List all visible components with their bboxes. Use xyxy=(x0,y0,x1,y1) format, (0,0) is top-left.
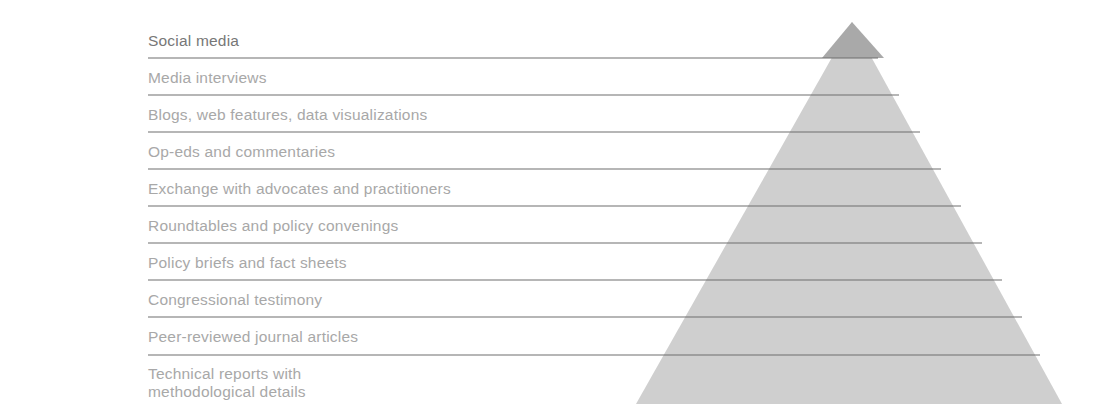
technical-reports-line-2: methodological details xyxy=(148,383,306,401)
layer-label-peer-reviewed: Peer-reviewed journal articles xyxy=(148,328,358,346)
layer-label-exchange: Exchange with advocates and practitioner… xyxy=(148,180,451,198)
technical-reports-line-1: Technical reports with xyxy=(148,365,306,383)
layer-label-policy-briefs: Policy briefs and fact sheets xyxy=(148,254,347,272)
layer-label-roundtables: Roundtables and policy convenings xyxy=(148,217,398,235)
layer-label-op-eds: Op-eds and commentaries xyxy=(148,143,335,161)
layer-label-congressional-testimony: Congressional testimony xyxy=(148,291,322,309)
pyramid-apex xyxy=(822,22,884,58)
pyramid-shape xyxy=(636,22,1062,404)
layer-label-blogs: Blogs, web features, data visualizations xyxy=(148,106,427,124)
pyramid-graphic xyxy=(0,0,1116,420)
layer-label-media-interviews: Media interviews xyxy=(148,69,267,87)
layer-label-social-media: Social media xyxy=(148,32,239,50)
layer-label-technical-reports: Technical reports with methodological de… xyxy=(148,365,306,401)
